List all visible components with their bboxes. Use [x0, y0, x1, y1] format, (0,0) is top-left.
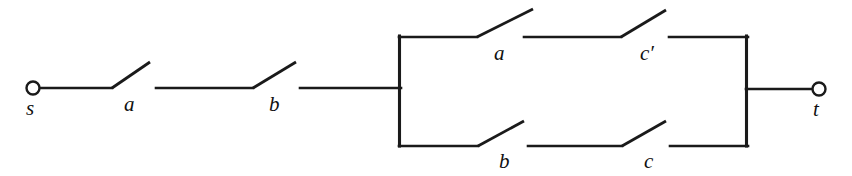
circuit-diagram-canvas: s a b a c′ b c t: [0, 0, 852, 176]
switch-b-series-blade: [253, 62, 296, 88]
terminal-s-node: [27, 82, 40, 95]
switch-cprime-top-label: c′: [640, 43, 654, 64]
switch-c-bottom-blade: [622, 121, 666, 146]
switch-b-bottom-label: b: [499, 151, 510, 172]
switch-a-series-blade: [112, 62, 150, 88]
terminal-t-node: [813, 83, 826, 96]
terminal-t-label: t: [813, 99, 819, 120]
circuit-diagram-svg: [0, 0, 852, 176]
switch-cprime-top-blade: [621, 10, 666, 37]
switch-b-series-label: b: [269, 94, 280, 115]
switch-a-series-label: a: [124, 94, 135, 115]
switch-c-bottom-label: c: [644, 151, 653, 172]
switch-a-top-label: a: [494, 43, 505, 64]
switch-b-bottom-blade: [478, 121, 524, 146]
terminal-s-label: s: [26, 98, 34, 119]
switch-a-top-blade: [477, 9, 533, 37]
